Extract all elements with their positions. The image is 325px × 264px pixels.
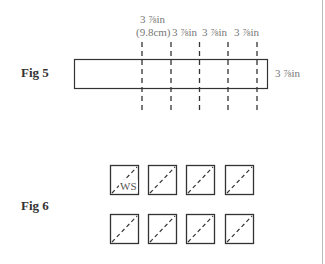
wrong-side-annotation: WS: [119, 180, 138, 192]
fig5-cut-lines: [142, 42, 257, 110]
fig6-squares: [111, 166, 254, 244]
diagram-canvas: [0, 0, 325, 264]
fig6-label: Fig 6: [21, 198, 49, 214]
fig6-diagonals: [112, 167, 252, 242]
